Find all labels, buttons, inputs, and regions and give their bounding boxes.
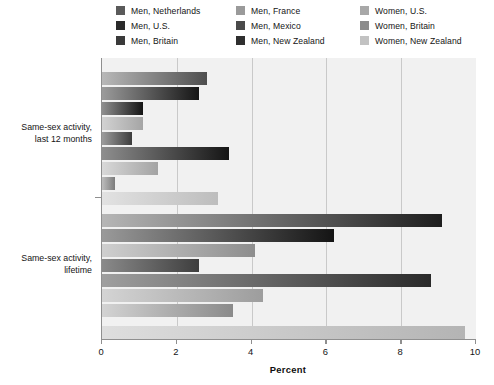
bar-last-12-months	[102, 117, 143, 130]
category-label-line1: Same-sex activity,	[0, 122, 92, 134]
legend-swatch-icon	[360, 36, 369, 45]
legend-swatch-icon	[236, 21, 245, 30]
legend-swatch-icon	[116, 21, 125, 30]
legend-item[interactable]: Men, France	[236, 3, 360, 18]
legend-swatch-icon	[116, 6, 125, 15]
x-axis-tick	[101, 339, 102, 344]
x-axis-tick-label: 4	[238, 346, 264, 357]
bar-last-12-months	[102, 132, 132, 145]
x-axis-tick	[400, 339, 401, 344]
category-label-line2: last 12 months	[0, 134, 92, 146]
x-axis-tick-label: 10	[462, 346, 488, 357]
legend-swatch-icon	[116, 36, 125, 45]
legend-label: Men, Mexico	[251, 21, 301, 31]
legend-swatch-icon	[236, 36, 245, 45]
plot-inner	[102, 58, 476, 339]
bar-lifetime	[102, 304, 233, 317]
legend-label: Women, U.S.	[375, 6, 427, 16]
legend-label: Men, Netherlands	[131, 6, 200, 16]
legend-item[interactable]: Women, U.S.	[360, 3, 482, 18]
bar-lifetime	[102, 274, 431, 287]
legend-item[interactable]: Women, New Zealand	[360, 33, 482, 48]
bar-last-12-months	[102, 177, 115, 190]
x-axis-title: Percent	[101, 364, 475, 375]
bar-last-12-months	[102, 102, 143, 115]
legend-item[interactable]: Men, New Zealand	[236, 33, 360, 48]
x-axis-tick-label: 8	[387, 346, 413, 357]
x-axis-tick	[251, 339, 252, 344]
legend-swatch-icon	[360, 6, 369, 15]
bar-last-12-months	[102, 162, 158, 175]
x-axis-tick-label: 0	[88, 346, 114, 357]
x-axis-tick-label: 6	[312, 346, 338, 357]
category-label-line1: Same-sex activity,	[0, 253, 92, 265]
plot-area	[101, 58, 476, 340]
category-label-last-12-months: Same-sex activity, last 12 months	[0, 122, 92, 145]
bar-last-12-months	[102, 72, 207, 85]
legend-item[interactable]: Men, U.S.	[116, 18, 236, 33]
x-axis-tick	[325, 339, 326, 344]
bar-lifetime	[102, 289, 263, 302]
legend-label: Men, New Zealand	[251, 36, 325, 46]
legend-label: Women, Britain	[375, 21, 435, 31]
legend-item[interactable]: Men, Britain	[116, 33, 236, 48]
category-label-line2: lifetime	[0, 265, 92, 277]
legend-swatch-icon	[236, 6, 245, 15]
chart-legend: Men, NetherlandsMen, FranceWomen, U.S.Me…	[116, 3, 482, 48]
chart-root: Men, NetherlandsMen, FranceWomen, U.S.Me…	[0, 0, 494, 385]
gridline	[326, 58, 327, 339]
bar-last-12-months	[102, 192, 218, 205]
bar-lifetime	[102, 326, 465, 339]
bar-lifetime	[102, 244, 255, 257]
x-axis-tick-label: 2	[163, 346, 189, 357]
category-label-lifetime: Same-sex activity, lifetime	[0, 253, 92, 276]
x-axis-tick	[176, 339, 177, 344]
bar-last-12-months	[102, 87, 199, 100]
legend-swatch-icon	[360, 21, 369, 30]
legend-item[interactable]: Men, Mexico	[236, 18, 360, 33]
legend-label: Men, France	[251, 6, 300, 16]
x-axis-tick	[475, 339, 476, 344]
legend-label: Men, Britain	[131, 36, 178, 46]
bar-lifetime	[102, 214, 442, 227]
bar-lifetime	[102, 229, 334, 242]
legend-label: Men, U.S.	[131, 21, 170, 31]
legend-item[interactable]: Women, Britain	[360, 18, 482, 33]
bar-last-12-months	[102, 147, 229, 160]
bar-lifetime	[102, 259, 199, 272]
legend-label: Women, New Zealand	[375, 36, 462, 46]
legend-item[interactable]: Men, Netherlands	[116, 3, 236, 18]
gridline	[401, 58, 402, 339]
